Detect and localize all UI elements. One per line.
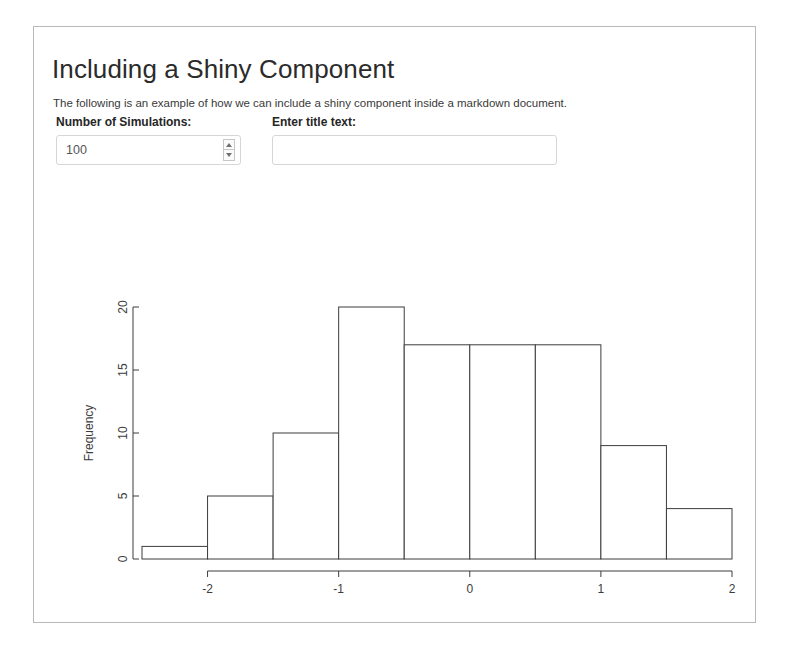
stepper-down-icon[interactable] [224,150,234,160]
y-axis-tick-label: 5 [116,492,130,499]
x-axis-tick-label: 0 [466,582,473,596]
histogram-plot: 05101520Frequency-2-1012Simulated Data [52,202,752,602]
histogram-bar [339,307,405,559]
histogram-svg: 05101520Frequency-2-1012Simulated Data [52,202,752,602]
x-axis-tick-label: -2 [202,582,213,596]
numeric-input-group: Number of Simulations: 100 [56,115,241,165]
histogram-bar [142,546,208,559]
histogram-bar [273,433,339,559]
title-text-input[interactable] [272,135,557,165]
histogram-bar [535,345,601,559]
shiny-markdown-document: Including a Shiny Component The followin… [0,0,790,651]
x-axis-tick-label: -1 [333,582,344,596]
numeric-input-value: 100 [66,136,87,164]
y-axis-tick-label: 0 [116,555,130,562]
histogram-bar [208,496,274,559]
title-input-group: Enter title text: [272,115,557,165]
x-axis-tick-label: 2 [729,582,736,596]
y-axis-tick-label: 20 [116,300,130,314]
x-axis-tick-label: 1 [598,582,605,596]
title-input-label: Enter title text: [272,115,557,129]
stepper-up-icon[interactable] [224,140,234,150]
y-axis-tick-label: 15 [116,363,130,377]
histogram-bar [601,446,667,559]
content-panel: Including a Shiny Component The followin… [33,26,756,623]
histogram-bar [666,509,732,559]
intro-paragraph: The following is an example of how we ca… [53,97,567,109]
numeric-input-label: Number of Simulations: [56,115,241,129]
numeric-stepper[interactable] [223,139,235,161]
numeric-input[interactable]: 100 [56,135,241,165]
histogram-bar [470,345,536,559]
y-axis-tick-label: 10 [116,426,130,440]
histogram-bar [404,345,470,559]
y-axis-title: Frequency [82,405,96,462]
controls-row: Number of Simulations: 100 Enter title t… [34,115,755,185]
page-title: Including a Shiny Component [52,54,394,85]
